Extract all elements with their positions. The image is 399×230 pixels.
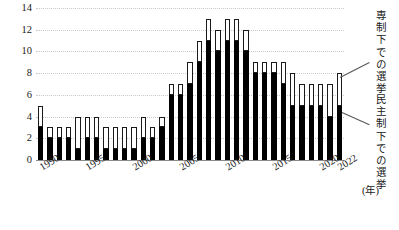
- bar-segment-autocracy-2012: [243, 30, 248, 52]
- bar-segment-democracy-2022: [337, 106, 342, 160]
- bar-1990: [38, 106, 43, 160]
- plot-area: [36, 8, 344, 160]
- bar-segment-autocracy-1995: [85, 117, 90, 139]
- bar-1999: [122, 127, 127, 160]
- bar-segment-democracy-2010: [225, 41, 230, 160]
- bar-segment-autocracy-2014: [262, 62, 267, 73]
- bar-2000: [131, 127, 136, 160]
- y-tick-14: 14: [6, 3, 32, 14]
- bar-segment-autocracy-2003: [159, 117, 164, 128]
- bar-2009: [215, 30, 220, 160]
- bar-segment-autocracy-1998: [113, 127, 118, 149]
- bar-segment-democracy-2014: [262, 73, 267, 160]
- bar-2014: [262, 62, 267, 160]
- bar-segment-autocracy-2000: [131, 127, 136, 149]
- bar-segment-autocracy-1993: [66, 127, 71, 138]
- bar-segment-democracy-2012: [243, 51, 248, 160]
- bar-segment-autocracy-1994: [75, 117, 80, 150]
- bar-segment-democracy-1990: [38, 127, 43, 160]
- bar-segment-autocracy-2013: [253, 62, 258, 73]
- y-tick-6: 6: [6, 90, 32, 101]
- bar-2012: [243, 30, 248, 160]
- y-tick-2: 2: [6, 133, 32, 144]
- bar-2019: [309, 84, 314, 160]
- bar-segment-democracy-1994: [75, 149, 80, 160]
- bar-segment-autocracy-2005: [178, 84, 183, 95]
- bar-segment-democracy-2011: [234, 41, 239, 160]
- election-regime-stacked-bar-chart: 02468101214 1990199520002005201020152020…: [0, 0, 399, 230]
- bar-2011: [234, 19, 239, 160]
- bar-2007: [197, 41, 202, 160]
- bar-segment-autocracy-2004: [169, 84, 174, 95]
- bar-segment-democracy-2007: [197, 62, 202, 160]
- bar-segment-autocracy-2002: [150, 127, 155, 138]
- bar-2018: [299, 84, 304, 160]
- bar-segment-democracy-2008: [206, 41, 211, 160]
- bar-1997: [103, 127, 108, 160]
- bar-segment-autocracy-1999: [122, 127, 127, 149]
- y-tick-8: 8: [6, 68, 32, 79]
- bar-segment-democracy-2017: [290, 106, 295, 160]
- bar-segment-autocracy-2015: [271, 62, 276, 73]
- y-tick-0: 0: [6, 155, 32, 166]
- bar-2017: [290, 73, 295, 160]
- y-tick-10: 10: [6, 46, 32, 57]
- bar-segment-autocracy-2008: [206, 19, 211, 41]
- bar-segment-democracy-2019: [309, 106, 314, 160]
- bar-2004: [169, 84, 174, 160]
- bar-segment-autocracy-2009: [215, 30, 220, 52]
- bar-segment-autocracy-2017: [290, 73, 295, 106]
- bar-segment-democracy-1993: [66, 138, 71, 160]
- annotation-democracy-label: 民主制下での選挙: [374, 94, 385, 192]
- bar-segment-democracy-2003: [159, 127, 164, 160]
- bar-2020: [318, 84, 323, 160]
- y-tick-4: 4: [6, 111, 32, 122]
- bar-2016: [281, 62, 286, 160]
- bar-2013: [253, 62, 258, 160]
- bar-segment-autocracy-1996: [94, 117, 99, 139]
- bar-2008: [206, 19, 211, 160]
- bar-segment-democracy-2004: [169, 95, 174, 160]
- bar-segment-democracy-2016: [281, 84, 286, 160]
- y-tick-12: 12: [6, 24, 32, 35]
- annotation-democracy-leader-line: [342, 112, 370, 125]
- bar-1993: [66, 127, 71, 160]
- bar-segment-autocracy-2011: [234, 19, 239, 41]
- bar-1994: [75, 117, 80, 160]
- bar-segment-democracy-2018: [299, 106, 304, 160]
- bar-segment-autocracy-2018: [299, 84, 304, 106]
- bar-segment-autocracy-2016: [281, 62, 286, 84]
- bar-segment-autocracy-2020: [318, 84, 323, 106]
- bar-2005: [178, 84, 183, 160]
- bar-2006: [187, 62, 192, 160]
- bar-series-group: [36, 8, 344, 160]
- bar-segment-autocracy-1997: [103, 127, 108, 149]
- bar-segment-autocracy-2001: [141, 117, 146, 139]
- bar-2015: [271, 62, 276, 160]
- bar-1995: [85, 117, 90, 160]
- bar-segment-autocracy-2010: [225, 19, 230, 41]
- annotation-autocracy-leader-line: [340, 62, 370, 78]
- bar-segment-democracy-1995: [85, 138, 90, 160]
- bar-segment-autocracy-2021: [327, 84, 332, 117]
- bar-segment-democracy-1998: [113, 149, 118, 160]
- bar-segment-democracy-2009: [215, 51, 220, 160]
- bar-segment-autocracy-2006: [187, 62, 192, 84]
- bar-segment-democracy-1999: [122, 149, 127, 160]
- bar-2003: [159, 117, 164, 160]
- bar-2021: [327, 84, 332, 160]
- y-axis-tick-labels: 02468101214: [0, 8, 32, 160]
- bar-segment-autocracy-2007: [197, 41, 202, 63]
- bar-segment-democracy-2006: [187, 84, 192, 160]
- bar-1998: [113, 127, 118, 160]
- bar-2022: [337, 73, 342, 160]
- bar-segment-democracy-2005: [178, 95, 183, 160]
- bar-segment-democracy-2015: [271, 73, 276, 160]
- bar-segment-autocracy-2019: [309, 84, 314, 106]
- bar-segment-democracy-2013: [253, 73, 258, 160]
- bar-segment-democracy-2020: [318, 106, 323, 160]
- bar-segment-autocracy-1992: [57, 127, 62, 138]
- bar-segment-autocracy-1990: [38, 106, 43, 128]
- annotation-autocracy-label: 専制下での選挙: [374, 10, 385, 95]
- bar-segment-autocracy-1991: [47, 127, 52, 138]
